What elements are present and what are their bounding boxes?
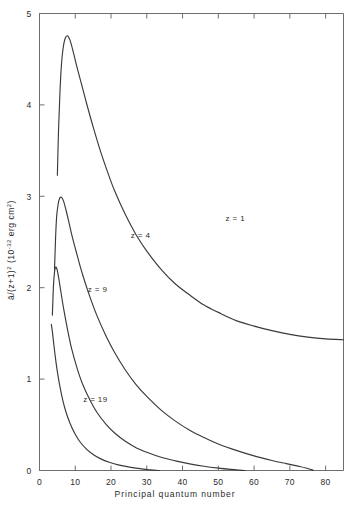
y-axis-ticks	[40, 14, 45, 471]
y-tick-label: 2	[26, 283, 31, 293]
x-axis-tick-labels: 01020304050607080	[37, 477, 331, 487]
y-tick-label: 4	[26, 100, 31, 110]
y-axis-unit-exponent: -32	[6, 239, 12, 249]
y-axis-divider: /(z+1)	[6, 270, 16, 295]
x-tick-label: 60	[249, 477, 259, 487]
y-axis-unit-rest: erg cm	[6, 207, 16, 236]
curve-series-labels: z = 1z = 4z = 9z = 19	[83, 214, 245, 404]
x-tick-label: 70	[285, 477, 295, 487]
data-curves	[51, 36, 343, 471]
y-axis-tick-labels: 012345	[26, 9, 31, 476]
series-curve-z9	[52, 267, 245, 470]
series-label: z = 4	[131, 231, 151, 240]
y-axis-unit-close: )	[6, 200, 16, 203]
series-curve-z4	[55, 197, 314, 470]
x-axis-title: Principal quantum number	[115, 489, 236, 499]
x-tick-label: 0	[37, 477, 42, 487]
y-tick-label: 5	[26, 9, 31, 19]
y-tick-label: 1	[26, 374, 31, 384]
svg-text:ā/(z+1)2 (10-32 erg cm2): ā/(z+1)2 (10-32 erg cm2)	[6, 200, 16, 300]
x-tick-label: 30	[142, 477, 152, 487]
x-tick-label: 10	[70, 477, 80, 487]
x-tick-label: 80	[321, 477, 331, 487]
chart-canvas: 01020304050607080 012345 z = 1z = 4z = 9…	[0, 0, 350, 510]
y-axis-title: ā/(z+1)2 (10-32 erg cm2)	[6, 200, 16, 300]
series-label: z = 1	[225, 214, 245, 223]
series-label: z = 9	[88, 285, 108, 294]
y-axis-unit-open: (10	[6, 249, 16, 263]
x-tick-label: 20	[106, 477, 116, 487]
figure-container: 01020304050607080 012345 z = 1z = 4z = 9…	[0, 0, 350, 510]
x-tick-label: 50	[213, 477, 223, 487]
y-tick-label: 3	[26, 192, 31, 202]
x-tick-label: 40	[178, 477, 188, 487]
y-tick-label: 0	[26, 466, 31, 476]
series-label: z = 19	[83, 395, 108, 404]
